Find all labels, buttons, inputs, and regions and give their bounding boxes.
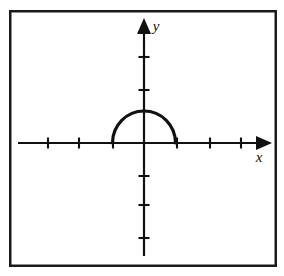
coordinate-plane-graph: x y: [0, 0, 284, 276]
figure-container: x y: [0, 0, 284, 276]
x-axis-label: x: [255, 149, 263, 165]
y-axis-label: y: [151, 18, 160, 34]
